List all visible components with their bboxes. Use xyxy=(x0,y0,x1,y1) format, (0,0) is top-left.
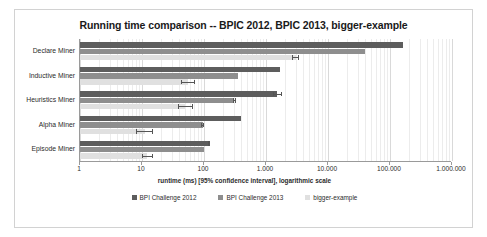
chart-card: Running time comparison -- BPIC 2012, BP… xyxy=(14,9,473,228)
error-bar xyxy=(208,141,210,146)
y-axis-label: Inductive Miner xyxy=(29,64,80,89)
x-tick-label: 1.000 xyxy=(257,165,274,172)
bar-1 xyxy=(80,98,234,103)
bar-0 xyxy=(80,116,241,121)
error-bar xyxy=(142,153,153,158)
legend-swatch-icon xyxy=(132,195,137,200)
category-row: Episode Miner xyxy=(80,137,451,162)
plot-wrapper: Declare MinerInductive MinerHeuristics M… xyxy=(15,10,474,229)
y-axis-label: Heuristics Miner xyxy=(26,88,80,113)
y-axis-label: Episode Miner xyxy=(32,137,80,162)
category-row: Declare Miner xyxy=(80,39,451,64)
legend-swatch-icon xyxy=(305,195,310,200)
error-bar xyxy=(273,91,282,96)
x-tick-label: 10 xyxy=(137,165,144,172)
x-tick-label: 1.000.000 xyxy=(436,165,465,172)
bar-2 xyxy=(80,104,185,109)
error-bar xyxy=(292,55,299,60)
x-tick-label: 10.000 xyxy=(317,165,337,172)
bar-1 xyxy=(80,122,203,127)
bar-1 xyxy=(80,73,238,78)
bar-2 xyxy=(80,129,145,134)
legend-item[interactable]: BPI Challenge 2013 xyxy=(218,194,283,201)
bar-0 xyxy=(80,42,403,47)
legend-item[interactable]: BPI Challenge 2012 xyxy=(132,194,197,201)
x-tick-label: 100 xyxy=(197,165,208,172)
error-bar xyxy=(181,79,196,84)
x-tick-label: 100.000 xyxy=(377,165,401,172)
legend-swatch-icon xyxy=(218,195,223,200)
error-bar xyxy=(201,122,204,127)
y-axis-label: Declare Miner xyxy=(33,39,80,64)
bar-0 xyxy=(80,91,277,96)
bar-0 xyxy=(80,67,280,72)
bar-2 xyxy=(80,153,147,158)
chart-legend: BPI Challenge 2012BPI Challenge 2013bigg… xyxy=(15,194,474,201)
bar-1 xyxy=(80,147,204,152)
legend-item[interactable]: bigger-example xyxy=(305,194,357,201)
bar-2 xyxy=(80,79,188,84)
bar-1 xyxy=(80,49,365,54)
error-bar xyxy=(136,129,153,134)
error-bar xyxy=(178,104,193,109)
error-bar xyxy=(233,98,236,103)
bar-2 xyxy=(80,55,296,60)
legend-label: bigger-example xyxy=(313,194,357,201)
legend-label: BPI Challenge 2012 xyxy=(140,194,197,201)
gridline-major xyxy=(452,39,453,161)
category-row: Alpha Miner xyxy=(80,113,451,138)
x-tick-label: 1 xyxy=(77,165,81,172)
y-axis-label: Alpha Miner xyxy=(39,113,80,138)
category-row: Inductive Miner xyxy=(80,64,451,89)
x-axis-title: runtime (ms) [95% confidence interval], … xyxy=(15,177,474,184)
bar-0 xyxy=(80,141,209,146)
legend-label: BPI Challenge 2013 xyxy=(226,194,283,201)
category-row: Heuristics Miner xyxy=(80,88,451,113)
plot-area: Declare MinerInductive MinerHeuristics M… xyxy=(79,39,451,162)
